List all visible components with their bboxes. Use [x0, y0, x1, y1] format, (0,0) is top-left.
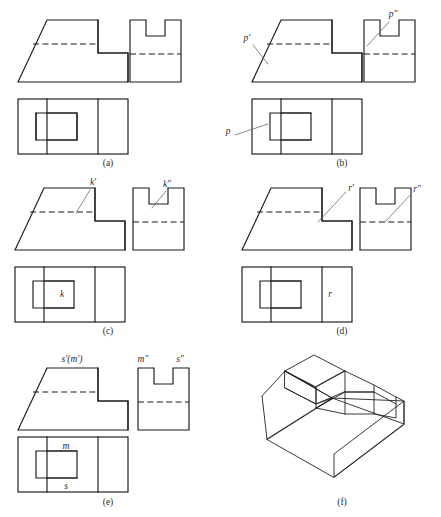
panel-e-side-view — [138, 368, 189, 430]
top-view-outline — [242, 267, 352, 322]
point-label-r-front: r' — [348, 183, 355, 193]
panel-a-side-view — [130, 20, 181, 82]
leader-line-p-side — [367, 22, 389, 46]
iso-base-front-slope — [267, 398, 404, 477]
panel-e-top-view — [18, 437, 128, 492]
iso-middle-ridge-top — [345, 371, 374, 392]
panel-caption-d: (d) — [336, 326, 347, 337]
side-view-outline — [133, 188, 184, 250]
top-view-slot-boundary — [271, 281, 301, 308]
panel-c-top-view — [15, 267, 125, 322]
front-view-step-edge — [332, 20, 362, 82]
panel-c-front-view — [15, 188, 125, 250]
leader-line-r-side — [385, 193, 412, 222]
side-view-outline — [130, 20, 181, 82]
top-view-outline — [15, 267, 125, 322]
iso-middle-ridge-slope — [316, 392, 345, 414]
panel-d-top-view — [242, 267, 352, 322]
panel-b-side-view — [364, 20, 415, 82]
panel-c-side-view — [133, 188, 184, 250]
point-label-k-top: k — [60, 289, 65, 299]
point-label-s-top: s — [64, 481, 68, 491]
panel-d-side-view — [360, 188, 411, 250]
panel-caption-e: (e) — [103, 497, 114, 508]
front-view-outline — [242, 188, 352, 250]
front-view-outline — [15, 188, 125, 250]
side-view-outline — [138, 368, 189, 430]
point-label-s-m-front: s'(m') — [62, 354, 83, 365]
top-view-outline — [18, 99, 128, 154]
point-label-k-side: k" — [163, 179, 172, 189]
panel-caption-a: (a) — [103, 158, 114, 169]
panel-caption-c: (c) — [103, 326, 114, 337]
panel-a-front-view — [18, 20, 128, 82]
front-view-outline — [18, 368, 128, 430]
side-view-outline — [364, 20, 415, 82]
front-view-step-edge — [98, 368, 128, 430]
top-view-slot-boundary — [281, 113, 311, 140]
front-view-outline — [18, 20, 128, 82]
panel-d: r' r" r (d) — [242, 183, 422, 337]
side-view-outline — [360, 188, 411, 250]
figure-sheet: (a) p' p" p (b) — [0, 0, 441, 517]
point-label-k-front: k' — [90, 177, 97, 187]
top-view-slot-boundary — [36, 113, 77, 140]
point-label-r-top: r — [328, 289, 332, 299]
front-view-outline — [252, 20, 362, 82]
leader-line-k-side — [152, 191, 166, 208]
leader-line-p-front — [253, 45, 268, 64]
panel-d-front-view — [242, 188, 352, 250]
top-view-outline — [18, 437, 128, 492]
isometric-pictorial — [262, 355, 404, 477]
top-view-slot-boundary — [47, 451, 77, 478]
panel-caption-b: (b) — [336, 158, 347, 169]
iso-base-right-face — [334, 401, 404, 477]
top-view-outline — [252, 99, 362, 154]
point-label-s-side: s" — [176, 354, 185, 364]
panel-b-top-view — [252, 99, 362, 154]
leader-line-k-front — [76, 190, 90, 213]
point-label-r-side: r" — [413, 184, 422, 194]
panel-e: s'(m') m" s" m s (e) — [18, 354, 189, 508]
panel-caption-f: (f) — [337, 497, 347, 508]
front-view-step-edge — [322, 188, 352, 250]
iso-right-notch-inner — [374, 392, 396, 404]
point-label-m-top: m — [63, 441, 70, 451]
point-label-p-side: p" — [388, 9, 399, 19]
iso-right-notch — [374, 385, 396, 418]
iso-left-prism-front — [285, 371, 316, 404]
top-view-inner-lines — [36, 99, 98, 154]
panel-b-front-view — [252, 20, 362, 82]
front-view-step-edge — [98, 20, 128, 82]
panel-e-front-view — [18, 368, 128, 430]
iso-notch-floor-left — [285, 388, 344, 404]
panel-b: p' p" p (b) — [225, 9, 415, 169]
top-view-inner-lines — [270, 99, 332, 154]
front-view-step-edge — [95, 188, 125, 250]
technical-drawing-canvas: (a) p' p" p (b) — [0, 0, 441, 517]
panel-a: (a) — [18, 20, 181, 169]
point-label-p-top: p — [225, 126, 231, 136]
panel-a-top-view — [18, 99, 128, 154]
iso-left-prism-top — [285, 355, 345, 387]
panel-f: (f) — [262, 355, 404, 508]
top-view-inner-lines — [260, 267, 322, 322]
iso-middle-ridge-face — [345, 392, 374, 414]
panel-c: k' k" k (c) — [15, 177, 184, 337]
point-label-p-front: p' — [243, 33, 252, 43]
point-label-m-side: m" — [138, 354, 150, 364]
